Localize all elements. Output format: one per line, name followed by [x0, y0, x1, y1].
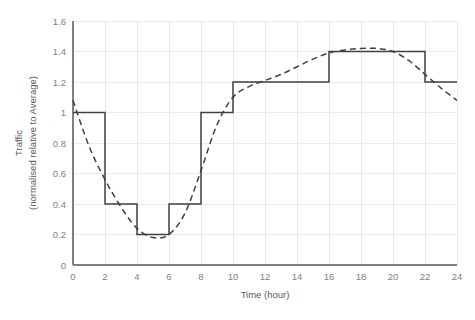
- y-tick-label: 0.8: [53, 138, 66, 149]
- y-tick-label: 0: [61, 260, 66, 271]
- y-tick-label: 0.4: [53, 199, 66, 210]
- x-tick-label: 22: [420, 271, 431, 282]
- y-tick-label: 1.6: [53, 16, 66, 27]
- x-tick-label: 10: [228, 271, 239, 282]
- x-tick-label: 8: [198, 271, 203, 282]
- x-tick-label: 4: [134, 271, 139, 282]
- x-tick-label: 16: [324, 271, 335, 282]
- x-tick-label: 14: [292, 271, 303, 282]
- y-tick-label: 1.2: [53, 77, 66, 88]
- y-axis-title-line1: Traffic: [13, 130, 24, 156]
- y-tick-label: 0.2: [53, 229, 66, 240]
- x-tick-label: 24: [452, 271, 463, 282]
- traffic-profile-chart: 00.20.40.60.811.21.41.6 0246810121416182…: [0, 0, 475, 320]
- y-tick-label: 1: [61, 107, 66, 118]
- x-tick-label: 6: [166, 271, 171, 282]
- y-axis-title-line2: (normalised relative to Average): [27, 76, 38, 210]
- x-tick-labels: 024681012141618202224: [70, 271, 462, 282]
- x-tick-label: 0: [70, 271, 75, 282]
- x-tick-label: 2: [102, 271, 107, 282]
- x-tick-label: 18: [356, 271, 367, 282]
- x-tick-label: 20: [388, 271, 399, 282]
- y-axis-title: Traffic (normalised relative to Average): [13, 76, 38, 210]
- chart-canvas: 00.20.40.60.811.21.41.6 0246810121416182…: [0, 0, 475, 320]
- x-axis-title: Time (hour): [241, 289, 290, 300]
- y-tick-label: 1.4: [53, 46, 66, 57]
- y-tick-labels: 00.20.40.60.811.21.41.6: [53, 16, 66, 271]
- y-tick-label: 0.6: [53, 168, 66, 179]
- x-tick-label: 12: [260, 271, 271, 282]
